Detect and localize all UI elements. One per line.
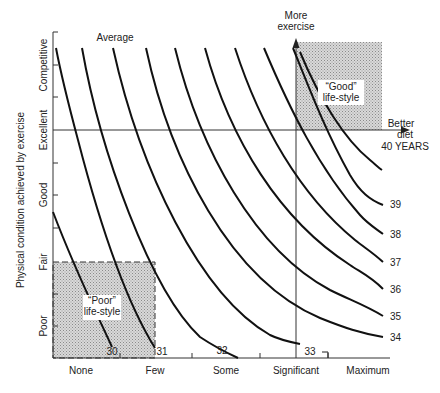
- curve-label-32: 32: [216, 345, 228, 356]
- poor-lifestyle-label-2: life-style: [84, 306, 121, 317]
- vertical-arrow-label-line2: exercise: [277, 21, 315, 32]
- curve-label-39: 39: [390, 199, 402, 210]
- curve-33-leader: [322, 352, 328, 358]
- y-tick-good: Good: [38, 183, 49, 207]
- x-tick-significant: Significant: [273, 365, 319, 376]
- curve-label-38: 38: [390, 229, 402, 240]
- curve-label-40-years: 40 YEARS: [381, 141, 429, 152]
- vertical-arrow-label-line1: More: [285, 10, 308, 21]
- y-axis-title: Physical condition achieved by exercise: [15, 111, 26, 288]
- curve-label-33: 33: [304, 346, 316, 357]
- x-tick-few: Few: [146, 365, 166, 376]
- y-tick-competitive: Competitive: [38, 38, 49, 91]
- curve-label-30: 30: [106, 346, 118, 357]
- good-lifestyle-label-1: “Good”: [325, 81, 356, 92]
- x-tick-some: Some: [213, 365, 240, 376]
- curve-label-34: 34: [390, 332, 402, 343]
- y-tick-poor: Poor: [38, 315, 49, 337]
- good-lifestyle-label-2: life-style: [323, 92, 360, 103]
- y-tick-excellent: Excellent: [38, 109, 49, 150]
- curve-label-36: 36: [390, 284, 402, 295]
- lifestyle-diagram: More exercise Average “Good” life-style …: [0, 0, 440, 393]
- curve-label-37: 37: [390, 257, 402, 268]
- curve-label-31: 31: [156, 346, 168, 357]
- x-tick-none: None: [69, 365, 93, 376]
- better-diet-label-1: Better: [388, 118, 415, 129]
- better-diet-label-2: diet: [397, 129, 413, 140]
- poor-lifestyle-label-1: “Poor”: [88, 295, 116, 306]
- y-tick-fair: Fair: [38, 253, 49, 271]
- average-label: Average: [96, 32, 134, 43]
- curve-label-35: 35: [390, 311, 402, 322]
- x-tick-maximum: Maximum: [346, 365, 389, 376]
